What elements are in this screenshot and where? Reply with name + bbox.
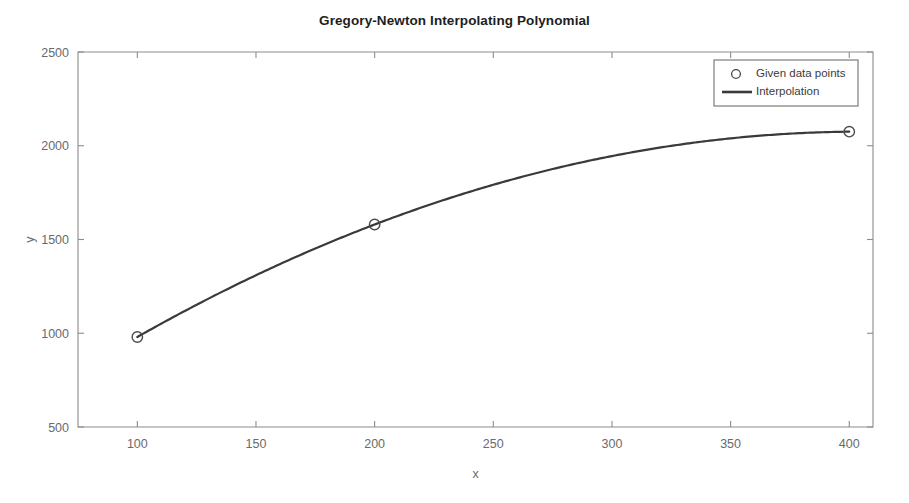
x-tick-label: 350 xyxy=(720,437,741,451)
y-tick-label: 1000 xyxy=(41,327,69,341)
plot-area: 5001000150020002500100150200250300350400… xyxy=(0,0,909,503)
x-tick-label: 400 xyxy=(839,437,860,451)
x-tick-label: 250 xyxy=(483,437,504,451)
data-point-markers xyxy=(132,126,854,342)
y-tick-label: 1500 xyxy=(41,233,69,247)
interpolation-curve xyxy=(137,132,849,337)
y-axis-label: y xyxy=(23,236,37,243)
x-tick-label: 300 xyxy=(602,437,623,451)
x-tick-label: 150 xyxy=(246,437,267,451)
y-tick-label: 2500 xyxy=(41,46,69,60)
interpolation-line xyxy=(137,132,849,337)
x-tick-label: 200 xyxy=(364,437,385,451)
plot-box-border xyxy=(78,52,873,427)
x-axis-label: x xyxy=(472,467,479,481)
legend-label-interpolation: Interpolation xyxy=(756,85,819,97)
figure-canvas: Gregory-Newton Interpolating Polynomial … xyxy=(0,0,909,503)
legend[interactable]: Given data pointsInterpolation xyxy=(714,60,858,106)
x-tick-label: 100 xyxy=(127,437,148,451)
axes-group: 5001000150020002500100150200250300350400… xyxy=(23,46,873,482)
y-tick-label: 2000 xyxy=(41,139,69,153)
y-tick-label: 500 xyxy=(48,421,69,435)
legend-label-given-data-points: Given data points xyxy=(756,67,846,79)
